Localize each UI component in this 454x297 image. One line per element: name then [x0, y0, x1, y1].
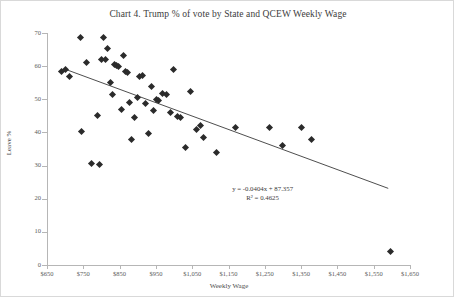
x-axis-tick-label: $1,650 — [385, 271, 435, 278]
y-axis-tick-label: 70 — [15, 30, 41, 37]
x-axis-tick — [337, 265, 338, 269]
x-axis-tick — [192, 265, 193, 269]
x-axis-tick — [156, 265, 157, 269]
trendline-equation: y = -0.0404x + 87.357 R² = 0.4625 — [232, 184, 293, 202]
x-axis-title: Weekly Wage — [47, 282, 411, 290]
x-axis-tick — [265, 265, 266, 269]
x-axis-tick — [120, 265, 121, 269]
x-axis-tick — [229, 265, 230, 269]
x-axis-tick — [47, 265, 48, 269]
x-axis-tick — [301, 265, 302, 269]
scatter-plot-area — [47, 33, 410, 265]
trendline-r2-line: R² = 0.4625 — [232, 193, 293, 202]
trendline — [47, 33, 410, 265]
trendline-equation-line: y = -0.0404x + 87.357 — [232, 184, 293, 193]
chart-title: Chart 4. Trump % of vote by State and QC… — [1, 9, 454, 19]
y-axis-tick-label: 0 — [15, 262, 41, 269]
chart-figure: Chart 4. Trump % of vote by State and QC… — [0, 0, 454, 297]
y-axis-tick-label: 10 — [15, 228, 41, 235]
x-axis-tick — [410, 265, 411, 269]
y-axis-tick-label: 20 — [15, 195, 41, 202]
x-axis-tick — [374, 265, 375, 269]
x-axis-tick — [83, 265, 84, 269]
y-axis-tick-label: 50 — [15, 96, 41, 103]
y-axis-title: Leave % — [5, 121, 13, 165]
y-axis-tick-label: 40 — [15, 129, 41, 136]
y-axis-tick-label: 60 — [15, 63, 41, 70]
y-axis-tick-label: 30 — [15, 162, 41, 169]
